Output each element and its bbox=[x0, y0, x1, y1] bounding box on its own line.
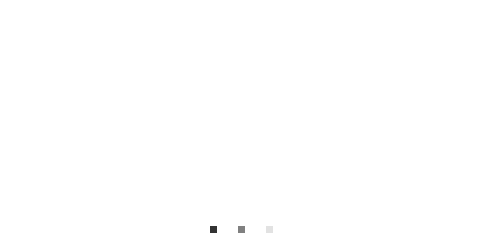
legend-item[interactable] bbox=[266, 226, 277, 233]
legend-swatch-icon bbox=[238, 226, 245, 233]
legend-item[interactable] bbox=[210, 226, 221, 233]
legend-item[interactable] bbox=[238, 226, 249, 233]
plot-area bbox=[0, 0, 487, 200]
chart-legend bbox=[0, 226, 487, 233]
legend-swatch-icon bbox=[210, 226, 217, 233]
bar-chart bbox=[0, 0, 487, 246]
legend-swatch-icon bbox=[266, 226, 273, 233]
